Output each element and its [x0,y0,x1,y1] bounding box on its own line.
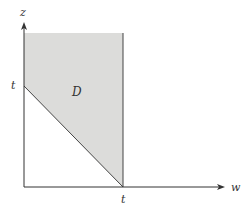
z-axis-label: z [19,6,26,19]
region-label: D [71,85,82,99]
z-tick-label: t [11,79,16,92]
w-tick-label: t [121,193,126,206]
region-d [24,33,123,187]
diagram-canvas: z w t t D [0,0,249,212]
w-axis-label: w [231,181,241,194]
